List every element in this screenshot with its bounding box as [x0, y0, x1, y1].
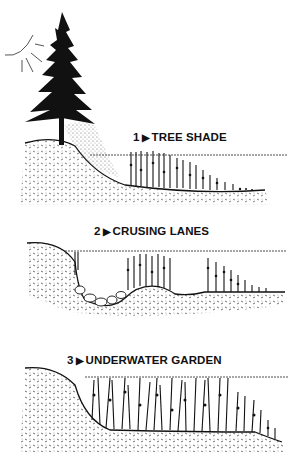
panel-1-label: 1 ▶ TREE SHADE: [133, 131, 227, 143]
panel-2-title: CRUSING LANES: [113, 225, 210, 237]
lake-habitat-diagram: 1 ▶ TREE SHADE 2 ▶ CRUSING LANES 3 ▶ UND…: [0, 0, 301, 457]
arrow-right-icon: ▶: [103, 226, 111, 237]
panel-1-title: TREE SHADE: [152, 131, 227, 143]
weed-bed-2: [75, 252, 266, 292]
panel-2-label: 2 ▶ CRUSING LANES: [94, 225, 209, 237]
sun-icon: [5, 35, 44, 72]
panel-3-label: 3 ▶ UNDERWATER GARDEN: [67, 354, 222, 366]
panel-3-number: 3: [67, 354, 74, 366]
arrow-right-icon: ▶: [142, 132, 150, 143]
panel-1-number: 1: [133, 131, 140, 143]
panel-3-title: UNDERWATER GARDEN: [86, 354, 222, 366]
weed-bed-1: [131, 151, 233, 190]
arrow-right-icon: ▶: [76, 355, 84, 366]
panel-2-number: 2: [94, 225, 101, 237]
